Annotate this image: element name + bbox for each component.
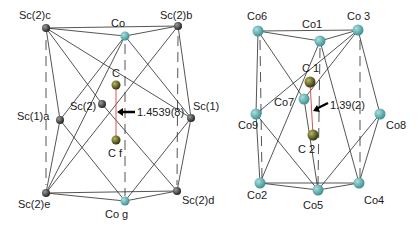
label-co8: Co8 [386, 119, 406, 131]
sc-atom-sc2c [42, 24, 50, 32]
label-co3: Co 3 [347, 10, 370, 22]
co-atom-co6 [253, 26, 264, 37]
sc-atom-sc2e [42, 189, 50, 197]
c-atom-top [112, 81, 121, 90]
label-sc2e: Sc(2)e [18, 198, 50, 210]
label-sc1: Sc(1) [193, 100, 219, 112]
sc-atom-sc1a [56, 116, 64, 124]
co-atom-co8 [375, 109, 386, 120]
label-co1: Co1 [302, 18, 322, 30]
sc-atom-sc2d [173, 187, 181, 195]
label-co-top: Co [111, 17, 125, 29]
label-sc2: Sc(2) [70, 100, 96, 112]
co-atom-co9 [251, 109, 262, 120]
label-co4: Co4 [364, 194, 384, 206]
label-sc2c: Sc(2)c [19, 9, 51, 21]
co-atom-bottom [121, 197, 130, 206]
label-co2: Co2 [247, 189, 267, 201]
label-c1: C 1 [302, 62, 319, 74]
label-co7: Co7 [274, 96, 294, 108]
right-cluster: Co6 Co1 Co 3 C 1 Co7 Co9 Co8 C 2 Co2 Co5… [238, 10, 406, 211]
sc-atom-sc2 [98, 100, 106, 108]
bond-arrow-left [117, 108, 135, 116]
sc-atom-sc2b [174, 22, 182, 30]
co-atom-top [121, 32, 130, 41]
co-atom-co2 [255, 178, 266, 189]
label-c-top: C [112, 67, 120, 79]
co-atom-co1 [315, 36, 326, 47]
label-c-bottom: C f [108, 147, 123, 159]
co-atom-co5 [313, 185, 324, 196]
label-co6: Co6 [247, 10, 267, 22]
label-co5: Co5 [303, 199, 323, 211]
bond-arrow-right [313, 103, 328, 112]
c-atom-c2 [308, 130, 319, 141]
co-atom-co3 [353, 25, 364, 36]
label-c2: C 2 [298, 143, 315, 155]
label-sc1a: Sc(1)a [17, 110, 50, 122]
c-atom-bottom [112, 136, 121, 145]
c-atom-c1 [305, 77, 316, 88]
co-atom-co7 [299, 94, 310, 105]
label-co9: Co9 [238, 119, 258, 131]
sc-atom-sc1 [187, 114, 195, 122]
label-co-bottom: Co g [105, 208, 128, 220]
bond-length-left: 1.4539(8) [137, 106, 184, 118]
bond-length-right: 1.39(2) [330, 99, 365, 111]
label-sc2d: Sc(2)d [182, 194, 214, 206]
label-sc2b: Sc(2)b [160, 9, 192, 21]
co-atom-co4 [354, 178, 365, 189]
cluster-diagram: Sc(2)c Co Sc(2)b C Sc(2) Sc(1)a Sc(1) C … [0, 0, 419, 227]
left-cluster: Sc(2)c Co Sc(2)b C Sc(2) Sc(1)a Sc(1) C … [17, 9, 219, 220]
